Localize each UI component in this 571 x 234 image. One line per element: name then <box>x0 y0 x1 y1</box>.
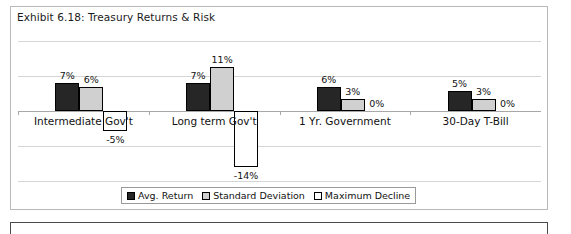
category-label-2: 1 Yr. Government <box>280 115 411 127</box>
bar-value-label: 3% <box>332 86 374 97</box>
bar-0-0 <box>55 83 79 111</box>
chart-plot-area: 7%6%-5%Intermediate Gov't7%11%-14%Long t… <box>18 41 541 181</box>
category-label-3: 30-Day T-Bill <box>410 115 541 127</box>
legend-entry-0[interactable]: Avg. Return <box>127 190 193 201</box>
bar-value-label: 6% <box>70 74 112 85</box>
next-exhibit-frame-partial <box>10 222 548 234</box>
gridline <box>18 181 541 182</box>
legend-swatch-icon <box>202 192 210 200</box>
bar-value-label: 11% <box>201 54 243 65</box>
legend-entry-2[interactable]: Maximum Decline <box>314 190 410 201</box>
chart-title: Exhibit 6.18: Treasury Returns & Risk <box>17 11 215 23</box>
gridline <box>18 146 541 147</box>
legend-label: Standard Deviation <box>213 190 305 201</box>
category-label-0: Intermediate Gov't <box>18 115 149 127</box>
legend-swatch-icon <box>314 192 322 200</box>
bar-value-label: 0% <box>356 98 398 109</box>
legend-entry-1[interactable]: Standard Deviation <box>202 190 305 201</box>
category-label-1: Long term Gov't <box>149 115 280 127</box>
chart-legend: Avg. ReturnStandard DeviationMaximum Dec… <box>121 187 416 204</box>
gridline <box>18 41 541 42</box>
legend-swatch-icon <box>127 192 135 200</box>
exhibit-frame: Exhibit 6.18: Treasury Returns & Risk 7%… <box>10 6 548 210</box>
bar-value-label: -14% <box>225 170 267 181</box>
bar-1-0 <box>186 83 210 111</box>
bar-value-label: 0% <box>487 98 529 109</box>
bar-value-label: 6% <box>308 74 350 85</box>
bar-value-label: -5% <box>94 134 136 145</box>
legend-label: Maximum Decline <box>325 190 410 201</box>
legend-label: Avg. Return <box>138 190 193 201</box>
bar-value-label: 3% <box>463 86 505 97</box>
bar-1-1 <box>210 67 234 111</box>
bar-0-1 <box>79 87 103 111</box>
